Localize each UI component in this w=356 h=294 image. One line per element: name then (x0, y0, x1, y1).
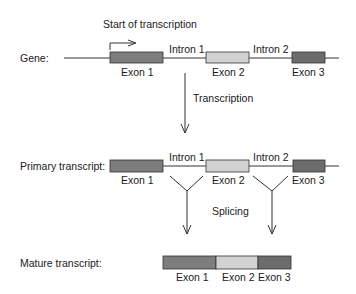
transcription-step-label: Transcription (193, 92, 253, 104)
gene-exon-3-label: Exon 3 (292, 66, 325, 78)
mature-exon-1-label: Exon 1 (176, 271, 209, 283)
primary-exon-3-label: Exon 3 (292, 174, 325, 186)
gene-intron-2-label: Intron 2 (253, 43, 289, 55)
primary-intron-1-label: Intron 1 (169, 151, 205, 163)
splicing-step-label: Splicing (212, 205, 249, 217)
primary-exon-2-label: Exon 2 (212, 174, 245, 186)
primary-exon-1-label: Exon 1 (121, 174, 154, 186)
mature-exon-3 (258, 256, 291, 269)
mature-exon-2-label: Exon 2 (222, 271, 255, 283)
mature-row-label: Mature transcript: (20, 257, 102, 269)
gene-exon-1 (110, 52, 163, 63)
gene-exon-2-label: Exon 2 (212, 66, 245, 78)
mature-row (163, 256, 291, 269)
primary-exon-2 (206, 160, 249, 172)
primary-exon-3 (293, 160, 325, 172)
gene-intron-1-label: Intron 1 (169, 43, 205, 55)
primary-row-label: Primary transcript: (20, 160, 105, 172)
splice-v-2-icon (253, 176, 288, 191)
gene-exon-2 (206, 52, 249, 63)
start-of-transcription-label: Start of transcription (103, 18, 197, 30)
gene-exon-3 (292, 52, 325, 63)
mature-exon-2 (216, 256, 258, 269)
primary-exon-1 (110, 160, 163, 172)
splice-v-1-icon (170, 176, 203, 191)
start-arrow-icon (110, 43, 134, 50)
primary-intron-2-label: Intron 2 (253, 151, 289, 163)
mature-exon-1 (163, 256, 216, 269)
primary-row (110, 160, 339, 234)
mature-exon-3-label: Exon 3 (258, 271, 291, 283)
gene-exon-1-label: Exon 1 (121, 66, 154, 78)
gene-row-label: Gene: (20, 52, 49, 64)
